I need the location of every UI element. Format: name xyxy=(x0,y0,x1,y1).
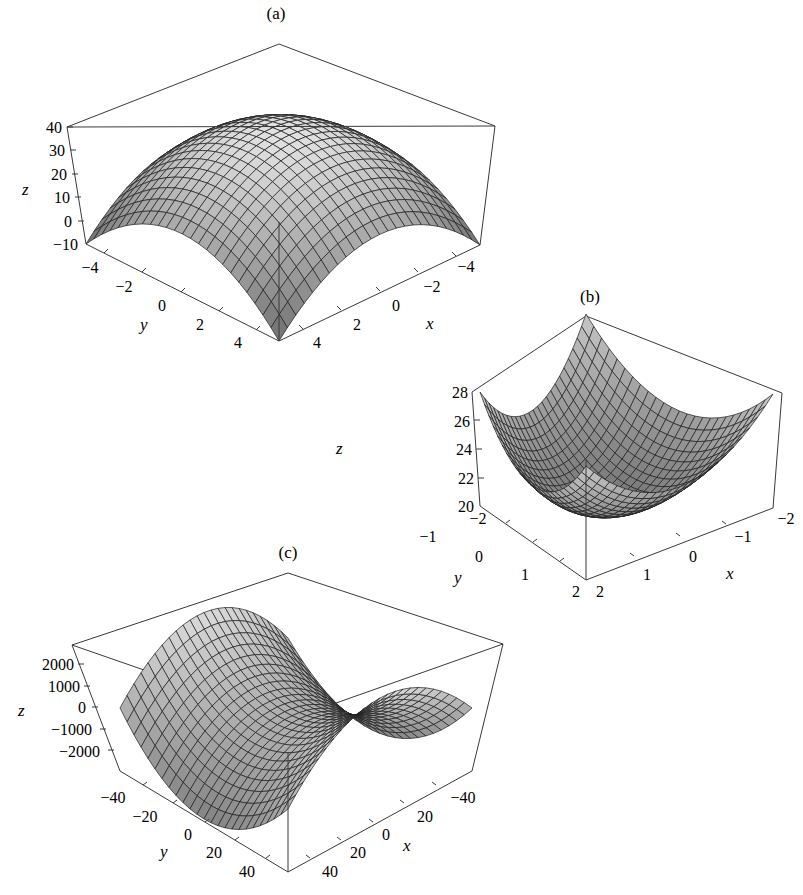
panel-c-z-tick: −2000 xyxy=(59,743,100,760)
panel-c-z-tick: 1000 xyxy=(48,678,80,695)
panel-c-z-tick: 2000 xyxy=(42,656,74,673)
panel-a-y-tick: 2 xyxy=(196,316,204,333)
panel-a-y-tick: −4 xyxy=(81,259,98,276)
panel-b-y-axis: −2 −1 0 1 2 y xyxy=(419,510,580,600)
panel-b-x-tick: 0 xyxy=(689,548,697,565)
panel-c-y-label: y xyxy=(158,842,168,861)
panel-a-z-tick: 20 xyxy=(51,166,67,183)
panel-c-y-tick: 40 xyxy=(239,863,255,880)
panel-a-x-tick: 0 xyxy=(392,297,400,314)
panel-b-x-tick: −1 xyxy=(734,528,751,545)
panel-b-y-label: y xyxy=(452,568,462,587)
panel-a-surface xyxy=(86,115,480,341)
panel-c-surface xyxy=(120,608,472,830)
panel-b-x-label: x xyxy=(725,564,734,583)
figure-canvas: (a) z 40 30 20 10 0 −10 −4 −2 0 2 4 y xyxy=(0,0,803,895)
panel-c-x-axis: 40 20 0 20 −40 x xyxy=(306,782,476,880)
panel-a-y-label: y xyxy=(138,315,148,334)
panel-c-x-label: x xyxy=(402,836,411,855)
panel-b-x-tick: 1 xyxy=(643,566,651,583)
panel-a-z-tick: 40 xyxy=(46,119,62,136)
panel-b-z-tick: 22 xyxy=(458,470,474,487)
panel-b-surface xyxy=(480,314,773,518)
panel-c-y-tick: −20 xyxy=(132,808,157,825)
panel-a-z-label: z xyxy=(21,180,29,199)
panel-b-x-axis: 2 1 0 −1 −2 x xyxy=(596,510,795,600)
panel-b: (b) z 28 26 24 22 20 −2 −1 0 1 2 y xyxy=(335,287,795,600)
panel-a: (a) z 40 30 20 10 0 −10 −4 −2 0 2 4 y xyxy=(21,4,495,351)
panel-c-x-tick: 20 xyxy=(417,808,433,825)
panel-a-x-label: x xyxy=(425,314,434,333)
panel-a-x-tick: 4 xyxy=(313,334,321,351)
panel-c-x-tick: 20 xyxy=(350,844,366,861)
panel-a-y-tick: −2 xyxy=(115,278,132,295)
panel-a-x-tick: 2 xyxy=(353,316,361,333)
panel-c-x-tick: 0 xyxy=(382,826,390,843)
panel-b-z-tick: 24 xyxy=(456,441,472,458)
panel-c-x-tick: −40 xyxy=(450,789,475,806)
panel-a-x-tick: −4 xyxy=(457,258,474,275)
panel-b-x-tick: −2 xyxy=(777,510,794,527)
panel-c-y-tick: 0 xyxy=(184,826,192,843)
panel-a-z-tick: −10 xyxy=(53,236,78,253)
panel-c-z-tick: 0 xyxy=(78,699,86,716)
panel-c-x-tick: 40 xyxy=(322,863,338,880)
panel-b-y-tick: −1 xyxy=(419,528,436,545)
panel-a-z-axis: z 40 30 20 10 0 −10 xyxy=(21,119,84,253)
panel-a-z-tick: 0 xyxy=(64,213,72,230)
panel-a-y-tick: 0 xyxy=(158,297,166,314)
panel-a-z-tick: 30 xyxy=(49,142,65,159)
panel-c-z-label: z xyxy=(17,701,25,720)
panel-c-y-tick: −40 xyxy=(100,789,125,806)
panel-b-y-tick: 1 xyxy=(521,566,529,583)
panel-b-y-tick: −2 xyxy=(469,510,486,527)
panel-b-z-axis: z 28 26 24 22 20 xyxy=(335,384,484,515)
panel-b-title: (b) xyxy=(580,287,600,306)
panel-b-z-label: z xyxy=(335,439,343,458)
panel-b-z-tick: 28 xyxy=(452,384,468,401)
panel-b-y-tick: 0 xyxy=(475,548,483,565)
panel-c-z-tick: −1000 xyxy=(51,721,92,738)
panel-a-z-tick: 10 xyxy=(54,189,70,206)
panel-c-z-axis: z 2000 1000 0 −1000 −2000 xyxy=(17,656,114,760)
panel-c-title: (c) xyxy=(279,543,298,562)
panel-b-y-tick: 2 xyxy=(572,583,580,600)
panel-a-y-tick: 4 xyxy=(234,334,242,351)
panel-c-y-tick: 20 xyxy=(206,844,222,861)
panel-b-z-tick: 26 xyxy=(454,413,470,430)
panel-b-x-tick: 2 xyxy=(596,583,604,600)
panel-c: (c) z 2000 1000 0 −1000 −2000 −40 −20 0 … xyxy=(17,543,503,880)
panel-a-title: (a) xyxy=(267,4,286,23)
panel-a-x-tick: −2 xyxy=(423,278,440,295)
